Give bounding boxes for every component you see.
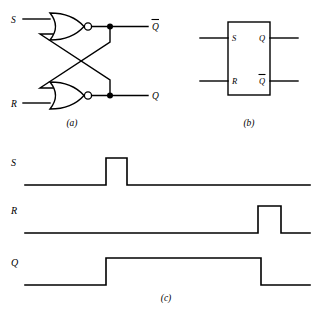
block-qbar-label: Q [259, 76, 265, 86]
caption-c: (c) [161, 293, 172, 304]
block-q-label: Q [259, 33, 265, 43]
block-r-label: R [231, 76, 238, 86]
waveform-label-s: S [11, 157, 16, 168]
waveform-s [25, 158, 310, 185]
sr-latch-figure: S R Q Q (a) S R Q Q (b) [0, 0, 322, 309]
logic-diagram-group: S R Q Q (a) [10, 13, 159, 129]
waveform-label-r: R [10, 205, 17, 216]
nor-gate-bottom-body [50, 82, 84, 109]
waveform-r [25, 206, 310, 233]
qbar-output-label: Q [152, 22, 159, 32]
nor-gate-top-bubble [84, 23, 91, 30]
timing-diagram-group: S R Q (c) [10, 157, 310, 304]
nor-gate-top-body [50, 13, 84, 40]
q-output-label: Q [152, 91, 159, 101]
figure-page: S R Q Q (a) S R Q Q (b) [0, 0, 322, 309]
block-symbol-group: S R Q Q (b) [200, 22, 298, 129]
nor-gate-bottom-bubble [84, 92, 91, 99]
waveform-q [25, 258, 310, 285]
caption-a: (a) [66, 118, 77, 129]
r-input-label: R [10, 99, 17, 109]
caption-b: (b) [243, 118, 254, 129]
s-input-label: S [11, 15, 16, 25]
waveform-label-q: Q [11, 257, 19, 268]
